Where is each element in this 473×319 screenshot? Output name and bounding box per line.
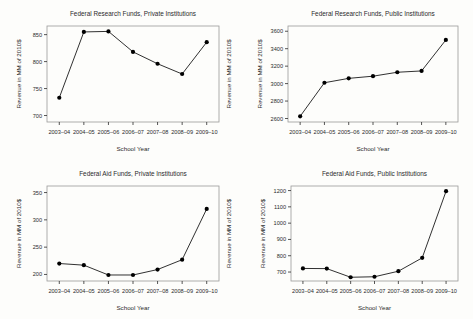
y-tick-label: 3600 <box>271 28 283 34</box>
data-point-marker <box>372 275 376 279</box>
series-line <box>303 191 446 277</box>
data-point-marker <box>180 72 184 76</box>
y-tick-label: 900 <box>277 236 286 242</box>
x-tick-label: 2003–04 <box>292 288 314 294</box>
chart-federal-research-private: Federal Research Funds, Private Institut… <box>0 0 236 160</box>
x-tick-label: 2009–10 <box>435 129 457 135</box>
data-point-marker <box>57 261 61 265</box>
x-tick-label: 2008–09 <box>171 288 193 294</box>
chart-federal-aid-private: Federal Aid Funds, Private Institutions2… <box>0 160 236 319</box>
data-point-marker <box>444 38 448 42</box>
x-tick-label: 2009–10 <box>196 288 218 294</box>
chart-federal-research-public: Federal Research Funds, Public Instituti… <box>236 0 473 160</box>
chart-federal-aid-public: Federal Aid Funds, Public Institutions70… <box>236 160 473 319</box>
figure-grid: Federal Research Funds, Private Institut… <box>0 0 473 319</box>
data-point-marker <box>82 263 86 267</box>
y-tick-label: 300 <box>33 217 42 223</box>
y-tick-label: 200 <box>33 271 42 277</box>
x-axis-label: School Year <box>116 304 149 311</box>
data-point-marker <box>396 269 400 273</box>
panel-federal-research-public: Federal Research Funds, Public Instituti… <box>236 0 473 160</box>
x-tick-label: 2006–07 <box>122 129 144 135</box>
data-point-marker <box>322 81 326 85</box>
data-point-marker <box>301 266 305 270</box>
y-tick-label: 3000 <box>271 81 283 87</box>
y-axis-label-right: Revenue in MM of 2010$ <box>225 198 232 268</box>
y-tick-label: 850 <box>33 32 42 38</box>
x-tick-label: 2008–09 <box>171 129 193 135</box>
plot-frame <box>47 186 219 281</box>
y-tick-label: 2600 <box>271 116 283 122</box>
data-point-marker <box>131 273 135 277</box>
y-tick-label: 700 <box>277 269 286 275</box>
x-axis-label: School Year <box>358 304 391 311</box>
panel-federal-aid-public: Federal Aid Funds, Public Institutions70… <box>236 160 473 319</box>
plot-frame <box>291 186 458 281</box>
x-tick-label: 2005–06 <box>338 129 360 135</box>
data-point-marker <box>82 30 86 34</box>
x-tick-label: 2003–04 <box>289 129 311 135</box>
y-axis-label: Revenue in MM of 2010$ <box>15 198 22 268</box>
x-tick-label: 2004–05 <box>73 129 95 135</box>
data-point-marker <box>205 40 209 44</box>
data-point-marker <box>155 267 159 271</box>
y-axis-label-right: Revenue in MM of 2010$ <box>225 39 232 109</box>
data-point-marker <box>205 207 209 211</box>
data-point-marker <box>298 114 302 118</box>
data-point-marker <box>180 258 184 262</box>
x-tick-label: 2008–09 <box>411 129 433 135</box>
chart-title: Federal Research Funds, Public Instituti… <box>311 10 435 17</box>
panel-federal-aid-private: Federal Aid Funds, Private Institutions2… <box>0 160 236 319</box>
data-point-marker <box>419 69 423 73</box>
y-tick-label: 2800 <box>271 98 283 104</box>
data-point-marker <box>444 189 448 193</box>
x-tick-label: 2003–04 <box>48 288 70 294</box>
panel-federal-research-private: Federal Research Funds, Private Institut… <box>0 0 236 160</box>
y-tick-label: 350 <box>33 190 42 196</box>
data-point-marker <box>106 273 110 277</box>
y-axis-label: Revenue in MM of 2010$ <box>256 39 263 109</box>
data-point-marker <box>349 275 353 279</box>
data-point-marker <box>106 29 110 33</box>
chart-title: Federal Aid Funds, Private Institutions <box>79 170 187 177</box>
y-tick-label: 700 <box>33 113 42 119</box>
x-axis-label: School Year <box>356 145 389 152</box>
x-tick-label: 2009–10 <box>196 129 218 135</box>
y-tick-label: 1000 <box>274 220 286 226</box>
x-tick-label: 2005–06 <box>340 288 362 294</box>
x-tick-label: 2006–07 <box>364 288 386 294</box>
chart-title: Federal Aid Funds, Public Institutions <box>322 170 427 177</box>
y-tick-label: 250 <box>33 244 42 250</box>
y-tick-label: 750 <box>33 86 42 92</box>
chart-title: Federal Research Funds, Private Institut… <box>70 10 196 17</box>
data-point-marker <box>420 256 424 260</box>
data-point-marker <box>131 50 135 54</box>
y-axis-label: Revenue in MM of 2010$ <box>259 198 266 268</box>
x-tick-label: 2007–08 <box>147 288 169 294</box>
data-point-marker <box>371 74 375 78</box>
x-tick-label: 2007–08 <box>386 129 408 135</box>
x-tick-label: 2007–08 <box>387 288 409 294</box>
x-tick-label: 2004–05 <box>73 288 95 294</box>
x-tick-label: 2008–09 <box>411 288 433 294</box>
series-line <box>59 209 206 275</box>
data-point-marker <box>57 96 61 100</box>
data-point-marker <box>155 62 159 66</box>
x-tick-label: 2003–04 <box>48 129 70 135</box>
series-line <box>59 31 206 97</box>
y-tick-label: 3400 <box>271 46 283 52</box>
x-tick-label: 2004–05 <box>316 288 338 294</box>
x-tick-label: 2006–07 <box>362 129 384 135</box>
x-tick-label: 2005–06 <box>98 288 120 294</box>
x-tick-label: 2005–06 <box>98 129 120 135</box>
y-tick-label: 1200 <box>274 188 286 194</box>
data-point-marker <box>347 76 351 80</box>
y-tick-label: 3200 <box>271 63 283 69</box>
data-point-marker <box>325 267 329 271</box>
plot-frame <box>47 26 219 122</box>
y-axis-label: Revenue in MM of 2010$ <box>15 39 22 109</box>
y-tick-label: 800 <box>33 59 42 65</box>
data-point-marker <box>395 70 399 74</box>
plot-frame <box>288 26 458 122</box>
y-tick-label: 1100 <box>274 204 286 210</box>
